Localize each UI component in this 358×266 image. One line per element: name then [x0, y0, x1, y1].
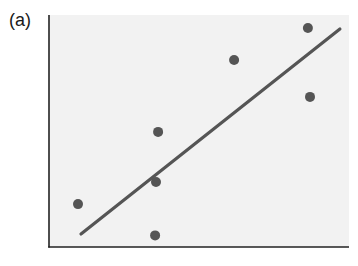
- data-point: [303, 23, 313, 33]
- data-point: [153, 127, 163, 137]
- scatter-chart: [0, 0, 358, 266]
- data-point: [73, 199, 83, 209]
- plot-background: [49, 15, 349, 247]
- data-point: [305, 92, 315, 102]
- data-point: [150, 230, 160, 240]
- data-point: [229, 55, 239, 65]
